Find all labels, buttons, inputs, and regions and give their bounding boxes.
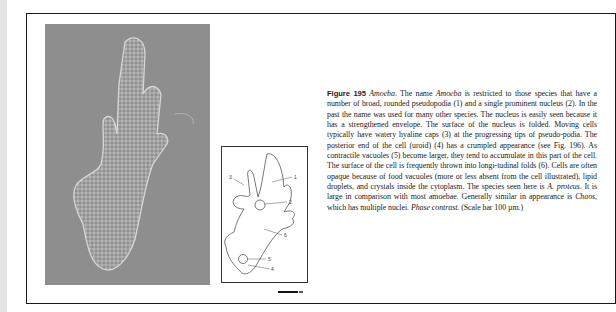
figure-caption: Figure 195 Amoeba. The name Amoeba is re… xyxy=(327,89,597,213)
figure-genus: Amoeba xyxy=(369,89,395,98)
amoeba-micrograph xyxy=(45,24,210,285)
cell-outline xyxy=(225,154,295,274)
caption-text: is restricted to those species that have… xyxy=(327,89,597,191)
diagram-label-1: 1 xyxy=(294,174,297,180)
diagram-label-4: 4 xyxy=(271,266,274,272)
scale-bar-end xyxy=(299,291,303,293)
caption-italic-term: Amoeba xyxy=(436,89,462,98)
nucleus xyxy=(255,200,265,210)
diagram-label-2: 2 xyxy=(289,199,292,205)
caption-italic-term: Chaos xyxy=(575,192,595,201)
caption-text: The name xyxy=(400,89,436,98)
page-edge-strip xyxy=(0,0,7,312)
figure-number: Figure 195 xyxy=(327,89,366,98)
caption-body: The name Amoeba is restricted to those s… xyxy=(327,89,597,212)
diagram-label-6: 6 xyxy=(284,232,287,238)
caption-text: (Scale bar 100 µm.) xyxy=(459,203,523,212)
amoeba-labelled-diagram: 1 2 3 4 5 6 xyxy=(221,146,308,283)
contractile-vacuole xyxy=(239,255,248,264)
caption-italic-term: Phase contrast. xyxy=(411,203,459,212)
diagram-label-5: 5 xyxy=(268,256,271,262)
caption-italic-term: A. proteus xyxy=(547,182,579,191)
scale-bar xyxy=(278,291,298,293)
diagram-label-3: 3 xyxy=(229,174,232,180)
